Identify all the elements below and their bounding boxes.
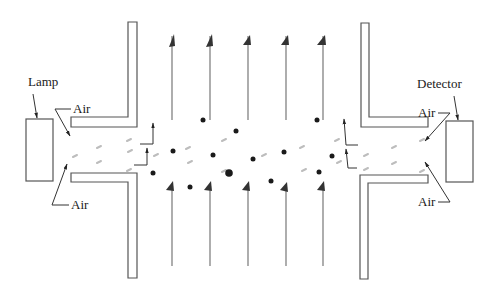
air-arrow-top-left-icon: [55, 109, 71, 136]
lamp-box: [26, 119, 53, 181]
air-label-top-left: Air: [73, 101, 91, 116]
right-bottom-wall: [360, 175, 428, 279]
inlet-step-arrows: [134, 119, 358, 168]
detector-box: [446, 121, 473, 182]
air-label-bottom-right: Air: [418, 194, 436, 209]
particles: [151, 118, 335, 190]
lamp-label: Lamp: [28, 74, 58, 89]
lamp-arrow-icon: [33, 94, 37, 118]
detector-arrow-icon: [454, 96, 458, 120]
light-path: [73, 139, 424, 172]
air-label-top-right: Air: [418, 105, 436, 120]
air-arrow-bottom-left-icon: [52, 164, 69, 205]
bottom-flow-lines: [166, 181, 325, 266]
gas-cell-diagram: Lamp Detector Air Air Air Air: [0, 0, 499, 296]
top-flow-lines: [169, 34, 326, 120]
detector-label: Detector: [417, 76, 462, 91]
air-label-bottom-left: Air: [71, 197, 89, 212]
left-bottom-wall: [71, 173, 137, 278]
